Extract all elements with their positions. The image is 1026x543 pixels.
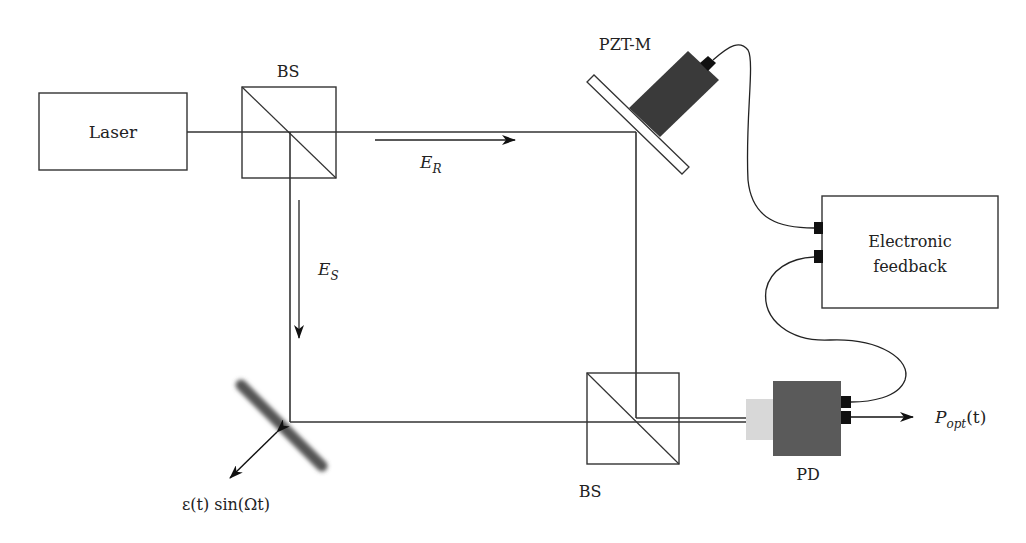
beam-splitter-top: BS bbox=[242, 62, 336, 178]
output-signal: Popt(t) bbox=[851, 407, 986, 431]
svg-text:ER: ER bbox=[419, 152, 441, 176]
signal-beam-arrow: ES bbox=[299, 200, 339, 338]
pd-connector-bottom bbox=[841, 411, 851, 424]
interferometer-diagram: Laser BS BS ER ES bbox=[0, 0, 1026, 543]
reference-beam-symbol: E bbox=[419, 152, 433, 172]
pd-connector-top bbox=[841, 396, 851, 408]
pd-window bbox=[746, 399, 773, 440]
feedback-label-line1: Electronic bbox=[868, 232, 951, 251]
reference-beam-subscript: R bbox=[431, 162, 441, 176]
beam-paths bbox=[187, 132, 746, 422]
reference-beam-arrow: ER bbox=[375, 140, 515, 176]
feedback-connector-top bbox=[814, 222, 823, 234]
beam-splitter-top-label: BS bbox=[277, 62, 300, 81]
electronic-feedback: Electronic feedback bbox=[814, 196, 998, 308]
beam-splitter-bottom-label: BS bbox=[579, 482, 602, 501]
svg-text:Popt(t): Popt(t) bbox=[934, 407, 986, 431]
signal-beam-subscript: S bbox=[330, 269, 338, 283]
vibrating-mirror: ε(t) sin(Ωt) bbox=[182, 385, 322, 514]
cable-pzt-to-feedback bbox=[713, 45, 814, 228]
pzt-mirror: PZT-M bbox=[587, 35, 719, 174]
output-suffix: (t) bbox=[966, 407, 986, 427]
vibrating-mirror-label: ε(t) sin(Ωt) bbox=[182, 495, 270, 514]
photodetector: PD bbox=[746, 381, 851, 484]
svg-text:ES: ES bbox=[317, 259, 339, 283]
feedback-label-line2: feedback bbox=[873, 257, 947, 276]
photodetector-label: PD bbox=[796, 465, 820, 484]
signal-beam-symbol: E bbox=[317, 259, 331, 279]
beam-splitter-bottom: BS bbox=[579, 373, 679, 501]
output-symbol: P bbox=[934, 407, 947, 427]
pzt-mirror-label: PZT-M bbox=[599, 35, 651, 54]
laser: Laser bbox=[39, 93, 187, 170]
laser-label: Laser bbox=[89, 122, 138, 142]
pd-body bbox=[773, 381, 841, 456]
feedback-connector-bottom bbox=[814, 250, 823, 263]
output-subscript: opt bbox=[946, 417, 966, 431]
